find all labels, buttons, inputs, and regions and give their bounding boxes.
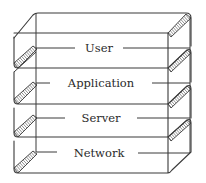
layer-network: Network (0, 146, 206, 160)
layer-user: User (0, 41, 206, 55)
layer-application: Application (0, 76, 206, 90)
layer-label-application: Application (60, 76, 142, 90)
layer-label-server: Server (74, 111, 129, 125)
layer-label-user: User (77, 41, 121, 55)
layer-label-network: Network (66, 146, 133, 160)
layer-server: Server (0, 111, 206, 125)
